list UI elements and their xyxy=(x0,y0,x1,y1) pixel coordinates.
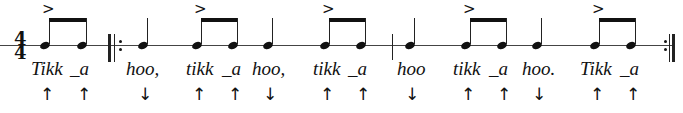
repeat-start-thick-bar xyxy=(108,34,111,62)
arrow-down-icon: ↓ xyxy=(405,84,419,104)
syllable: tikk xyxy=(186,58,213,80)
repeat-dot xyxy=(119,40,122,43)
accent-mark: > xyxy=(592,2,605,17)
beam xyxy=(329,18,366,22)
arrow-up-icon: ↑ xyxy=(77,84,91,104)
beam xyxy=(49,18,87,22)
syllable: tikk xyxy=(313,58,340,80)
repeat-end-thin-bar xyxy=(669,34,670,62)
arrow-up-icon: ↑ xyxy=(497,84,511,104)
arrow-up-icon: ↑ xyxy=(40,84,54,104)
arrow-up-icon: ↑ xyxy=(356,84,370,104)
note-stem xyxy=(237,18,238,44)
arrow-up-icon: ↑ xyxy=(228,84,242,104)
syllable: Tikk xyxy=(580,58,612,80)
arrow-down-icon: ↓ xyxy=(532,84,546,104)
note-stem xyxy=(147,18,148,44)
syllable: _a xyxy=(70,58,89,80)
repeat-end-thick-bar xyxy=(672,34,675,62)
syllable: hoo xyxy=(397,58,426,80)
note-stem xyxy=(541,18,542,44)
arrow-up-icon: ↑ xyxy=(461,84,475,104)
repeat-start-thin-bar xyxy=(114,34,115,62)
accent-mark: > xyxy=(194,2,207,17)
repeat-dot xyxy=(119,48,122,51)
syllable: Tikk xyxy=(31,58,63,80)
beam xyxy=(599,18,636,22)
accent-mark: > xyxy=(322,2,335,17)
arrow-up-icon: ↑ xyxy=(626,84,640,104)
repeat-dot xyxy=(664,48,667,51)
note-stem xyxy=(272,18,273,44)
repeat-dot xyxy=(664,40,667,43)
arrow-down-icon: ↓ xyxy=(263,84,277,104)
syllable: hoo. xyxy=(522,58,555,80)
arrow-up-icon: ↑ xyxy=(590,84,604,104)
arrow-down-icon: ↓ xyxy=(138,84,152,104)
staff-line xyxy=(0,45,672,46)
arrow-up-icon: ↑ xyxy=(192,84,206,104)
note-stem xyxy=(635,18,636,44)
arrow-up-icon: ↑ xyxy=(320,84,334,104)
note-stem xyxy=(86,18,87,44)
beam xyxy=(470,18,507,22)
accent-mark: > xyxy=(42,2,55,17)
syllable: _a xyxy=(620,58,639,80)
syllable: hoo, xyxy=(252,58,285,80)
syllable: _a xyxy=(489,58,508,80)
barline xyxy=(392,34,393,60)
time-signature-bottom: 4 xyxy=(14,46,27,60)
syllable: _a xyxy=(222,58,241,80)
note-stem xyxy=(414,18,415,44)
note-stem xyxy=(365,18,366,44)
syllable: hoo, xyxy=(126,58,159,80)
beam xyxy=(201,18,238,22)
syllable: tikk xyxy=(453,58,480,80)
accent-mark: > xyxy=(463,2,476,17)
syllable: _a xyxy=(348,58,367,80)
note-stem xyxy=(506,18,507,44)
